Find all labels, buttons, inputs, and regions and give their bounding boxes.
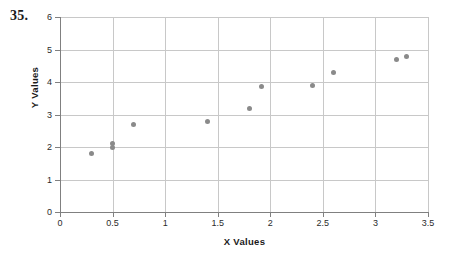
data-point [205,119,210,124]
y-axis-tick-label: 2 [22,142,52,152]
x-axis-line [60,212,429,213]
x-axis-tick-label: 0.5 [98,218,128,228]
x-axis-tick [165,212,166,217]
gridline-vertical [218,17,219,212]
gridline-vertical [165,17,166,212]
gridline-vertical [375,17,376,212]
data-point [89,151,94,156]
data-point [259,84,264,89]
data-point [247,106,252,111]
data-point [310,83,315,88]
x-axis-tick-label: 2 [255,218,285,228]
x-axis-tick-label: 1.5 [203,218,233,228]
y-axis-tick-label: 5 [22,45,52,55]
x-axis-tick-label: 1 [150,218,180,228]
y-axis-tick [55,115,60,116]
x-axis-tick-label: 3.5 [413,218,443,228]
x-axis-tick-label: 3 [360,218,390,228]
y-axis-line [60,17,61,213]
gridline-horizontal [60,17,428,18]
y-axis-tick [55,50,60,51]
gridline-horizontal [60,82,428,83]
y-axis-tick [55,17,60,18]
gridline-vertical [113,17,114,212]
y-axis-tick-label: 0 [22,207,52,217]
data-point [131,122,136,127]
x-axis-title: X Values [60,236,429,247]
gridline-horizontal [60,147,428,148]
x-axis-tick [218,212,219,217]
x-axis-tick [113,212,114,217]
chart-canvas: Y Values X Values 012345600.511.522.533.… [0,0,460,264]
y-axis-tick-label: 4 [22,77,52,87]
gridline-vertical [323,17,324,212]
data-point [110,141,115,146]
gridline-horizontal [60,50,428,51]
data-point [404,54,409,59]
y-axis-tick-label: 6 [22,12,52,22]
y-axis-tick-label: 1 [22,175,52,185]
y-axis-tick [55,180,60,181]
x-axis-tick [375,212,376,217]
x-axis-tick-label: 2.5 [308,218,338,228]
data-point [394,57,399,62]
x-axis-tick [428,212,429,217]
y-axis-tick-label: 3 [22,110,52,120]
plot-right-border [428,17,429,213]
x-axis-tick-label: 0 [45,218,75,228]
y-axis-tick [55,82,60,83]
y-axis-tick [55,147,60,148]
x-axis-tick [270,212,271,217]
plot-area [60,17,428,212]
gridline-vertical [270,17,271,212]
data-point [331,70,336,75]
x-axis-tick [60,212,61,217]
gridline-horizontal [60,115,428,116]
gridline-horizontal [60,180,428,181]
x-axis-tick [323,212,324,217]
scatter-plot-figure: 35. Y Values X Values 012345600.511.522.… [0,0,460,264]
